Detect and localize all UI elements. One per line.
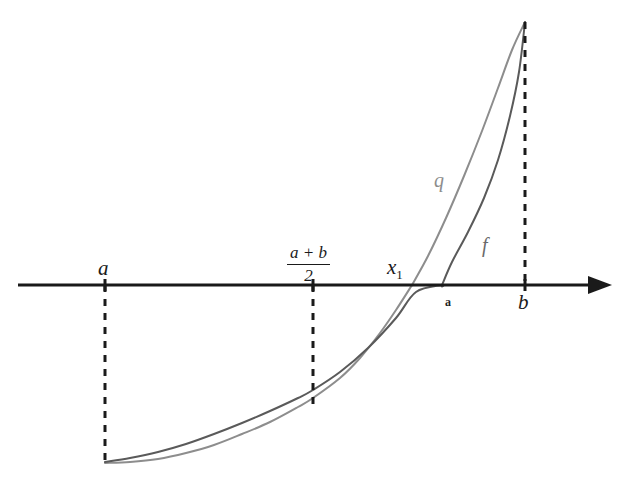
label-midpoint-numerator: a + b [287,243,330,265]
arrow-right-icon [588,276,612,294]
label-midpoint-fraction: a + b 2 [287,243,330,286]
label-x1-subscript: 1 [396,267,403,282]
label-point-b: b [518,292,529,313]
label-midpoint-denominator: 2 [287,265,330,286]
label-x1-base: x [387,255,396,279]
label-point-a: a [98,258,109,279]
label-curve-q: q [434,170,444,190]
label-curve-f: f [482,235,488,255]
label-x1: x1 [387,257,403,281]
figure-root: a a + b 2 x1 a b q f [0,0,628,493]
label-true-root-a: a [445,296,451,308]
